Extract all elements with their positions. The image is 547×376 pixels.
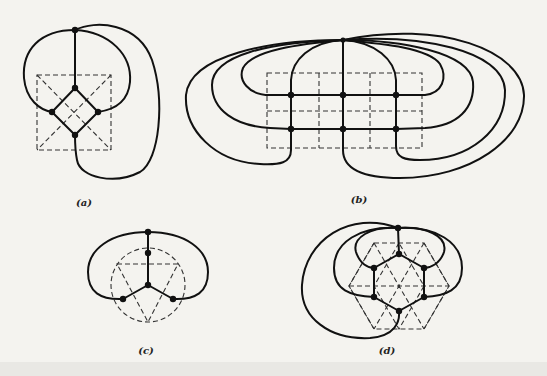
vertex	[95, 109, 101, 115]
panel-a	[24, 25, 159, 179]
hexagon-edges	[374, 254, 424, 311]
loop-edge	[212, 40, 343, 129]
loop-edge	[334, 228, 398, 297]
vertex	[396, 251, 402, 257]
arch-edge	[343, 40, 396, 95]
caption-b: (b)	[351, 194, 367, 205]
vertex	[170, 296, 176, 302]
vertex	[421, 265, 427, 271]
loop-edge	[398, 228, 462, 297]
vertex	[393, 92, 399, 98]
vertex	[340, 126, 346, 132]
vertex	[49, 109, 55, 115]
vertex	[371, 294, 377, 300]
outer-loop-edge	[302, 223, 399, 338]
left-loop-edge	[24, 30, 75, 112]
apex-vertex	[340, 37, 345, 42]
vertex	[288, 92, 294, 98]
panel-d	[302, 223, 462, 338]
vertex	[396, 308, 402, 314]
figure-canvas	[0, 0, 547, 376]
apex-vertex	[395, 225, 401, 231]
panel-b	[186, 34, 524, 178]
vertex	[421, 294, 427, 300]
vertex	[72, 132, 78, 138]
vertex	[393, 126, 399, 132]
loop-edge	[355, 228, 398, 268]
panel-c	[88, 229, 208, 322]
vertex	[145, 250, 151, 256]
vertex	[145, 282, 151, 288]
loop-edge	[343, 40, 473, 129]
loop-edge	[343, 39, 505, 160]
vertex	[340, 92, 346, 98]
spoke-edge	[123, 285, 148, 299]
inner-right-loop-edge	[75, 30, 130, 112]
vertex	[72, 85, 78, 91]
vertex	[288, 126, 294, 132]
vertex	[72, 27, 78, 33]
vertex	[120, 296, 126, 302]
caption-c: (c)	[138, 345, 154, 356]
vertex	[371, 265, 377, 271]
stem-edge	[398, 228, 399, 254]
caption-d: (d)	[379, 345, 395, 356]
arch-edge	[291, 40, 343, 95]
caption-a: (a)	[76, 197, 92, 208]
vertex	[145, 229, 151, 235]
